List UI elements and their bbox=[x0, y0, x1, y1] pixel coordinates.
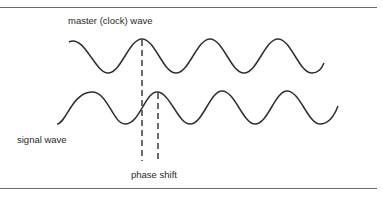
signal-wave-label: signal wave bbox=[17, 134, 67, 145]
phase-shift-diagram bbox=[0, 0, 383, 197]
signal-wave bbox=[57, 91, 338, 124]
phase-shift-label: phase shift bbox=[131, 169, 177, 180]
master-wave-label: master (clock) wave bbox=[68, 15, 152, 26]
master-wave bbox=[69, 39, 324, 73]
